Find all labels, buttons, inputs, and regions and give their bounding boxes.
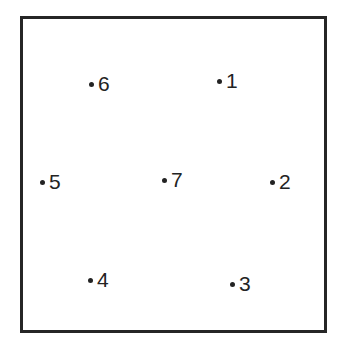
point-label-3: 3 [239, 273, 251, 294]
point-marker-icon [230, 282, 235, 287]
point-marker-icon [162, 178, 167, 183]
point-label-4: 4 [97, 269, 109, 290]
point-marker-icon [88, 278, 93, 283]
point-label-1: 1 [226, 70, 238, 91]
point-label-7: 7 [171, 169, 183, 190]
point-marker-icon [40, 180, 45, 185]
point-label-2: 2 [279, 171, 291, 192]
point-label-5: 5 [49, 171, 61, 192]
figure-canvas: 1234567 [0, 0, 340, 339]
point-label-6: 6 [98, 73, 110, 94]
point-marker-icon [217, 79, 222, 84]
point-marker-icon [89, 82, 94, 87]
point-marker-icon [270, 180, 275, 185]
